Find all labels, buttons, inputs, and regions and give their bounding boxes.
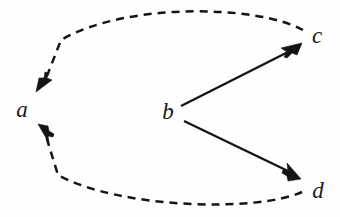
arrowhead-b-to-c [281,43,302,58]
arrowhead-c-to-a [36,72,52,92]
node-label-c: c [312,24,322,47]
edge-b-to-d-solid [184,121,290,172]
edge-c-to-a-dashed-arc [45,11,303,81]
edge-d-to-a-dashed-arc [46,136,302,204]
edge-b-to-c-solid [181,50,292,106]
diagram-canvas: a b c d [0,0,340,217]
arrowhead-b-to-d [282,163,301,181]
node-label-d: d [312,179,324,202]
node-label-a: a [16,98,28,121]
node-label-b: b [162,100,174,123]
